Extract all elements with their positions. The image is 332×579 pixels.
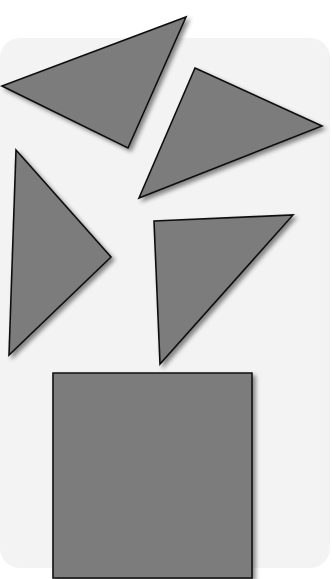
triangle-top-left — [2, 17, 186, 148]
triangle-top-right — [139, 68, 322, 198]
shapes-canvas — [0, 0, 332, 579]
square-bottom — [53, 373, 252, 578]
triangle-middle-left — [9, 150, 111, 355]
triangle-middle-right — [154, 215, 293, 364]
